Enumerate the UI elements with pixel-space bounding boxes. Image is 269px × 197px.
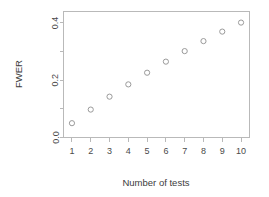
- x-tick-label: 9: [220, 146, 225, 156]
- x-tick-label: 10: [236, 146, 246, 156]
- y-tick-label: 0.4: [51, 17, 61, 30]
- y-axis-title: FWER: [13, 60, 24, 88]
- x-tick-label: 3: [107, 146, 112, 156]
- x-tick-label: 8: [201, 146, 206, 156]
- x-tick-label: 7: [182, 146, 187, 156]
- chart-figure: 0.00.20.4 12345678910 Number of tests FW…: [0, 0, 269, 197]
- x-tick-label: 6: [163, 146, 168, 156]
- y-tick-label: 0.0: [51, 131, 61, 144]
- x-tick-label: 1: [69, 146, 74, 156]
- x-axis-title: Number of tests: [122, 177, 189, 188]
- plot-background: [0, 0, 269, 197]
- x-tick-label: 5: [145, 146, 150, 156]
- x-tick-label: 2: [88, 146, 93, 156]
- x-tick-label: 4: [126, 146, 131, 156]
- scatter-plot: 0.00.20.4 12345678910 Number of tests FW…: [0, 0, 269, 197]
- y-tick-label: 0.2: [51, 74, 61, 87]
